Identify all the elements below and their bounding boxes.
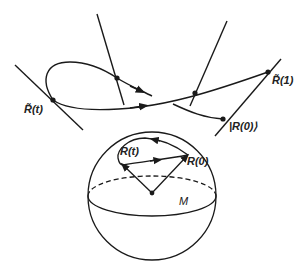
label-manifold-m: M [179, 195, 189, 207]
fibre-line-2 [97, 14, 124, 105]
sphere-outline [88, 132, 216, 260]
point-r1-tilde [265, 69, 270, 74]
label-r0-ket: |R(0)⟩ [229, 120, 258, 132]
fibre-line-1 [15, 65, 83, 130]
upper-curve-group [15, 14, 281, 136]
point-r0-ket [220, 116, 225, 121]
sphere-centre-point [150, 191, 155, 196]
lifted-loop-curve [46, 62, 152, 100]
label-r0: R(0) [187, 155, 209, 167]
point-rt-tilde [50, 97, 55, 102]
point-line3-intersection [192, 90, 197, 95]
label-rt-tilde: R̃(t) [24, 103, 43, 115]
curve-to-r0-ket [173, 104, 223, 119]
point-line2-intersection [114, 75, 119, 80]
label-r1-tilde: R̃(1) [272, 74, 294, 86]
upper-points [50, 69, 270, 121]
vector-to-rt [124, 166, 152, 193]
vector-to-r0 [152, 157, 186, 193]
sphere-group [88, 132, 216, 260]
arrow-lower-branch [130, 106, 144, 108]
diagram-canvas: R̃(t) R̃(1) |R(0)⟩ R(t) R(0) M [0, 0, 306, 274]
equator-front [88, 196, 216, 216]
label-rt: R(t) [120, 145, 139, 157]
arrow-upper-branch [130, 86, 141, 91]
lifted-lower-curve [53, 72, 268, 110]
